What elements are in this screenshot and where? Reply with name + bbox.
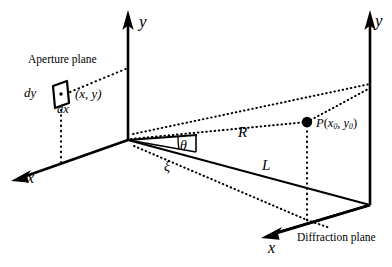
- aperture-plane-label: Aperture plane: [28, 54, 97, 66]
- aperture-x-axis-label: x: [27, 170, 34, 186]
- aperture-x-axis: [26, 140, 128, 176]
- field-point-name: P: [316, 116, 324, 130]
- aperture-y-axis-label: y: [139, 13, 147, 30]
- field-point-label: P(x0, y0): [316, 117, 357, 130]
- field-point-marker: [302, 117, 312, 127]
- diffraction-geometry-figure: Aperture plane y y x x dy dx (x, y) θ ξ …: [0, 0, 392, 267]
- diffraction-x-axis-label: x: [268, 240, 275, 256]
- dy-label: dy: [24, 86, 36, 99]
- aperture-element-center-dot: [59, 92, 62, 95]
- xi-angle-label: ξ: [164, 160, 170, 174]
- diffraction-y-axis-label: y: [375, 12, 383, 29]
- distance-L-label: L: [262, 158, 270, 173]
- distance-R-label: R: [238, 125, 247, 140]
- xi-projection-line: [134, 146, 307, 220]
- figure-vector-canvas: [0, 0, 392, 267]
- diffraction-plane-front-edge: [272, 205, 370, 234]
- theta-angle-arc: [178, 137, 179, 149]
- ray-R-line: [131, 122, 307, 139]
- aperture-point-label: (x, y): [75, 87, 102, 100]
- diffraction-plane-label: Diffraction plane: [297, 232, 376, 244]
- plane-connecting-lines: [128, 135, 370, 234]
- theta-angle-label: θ: [180, 139, 187, 153]
- dx-label: dx: [57, 103, 69, 116]
